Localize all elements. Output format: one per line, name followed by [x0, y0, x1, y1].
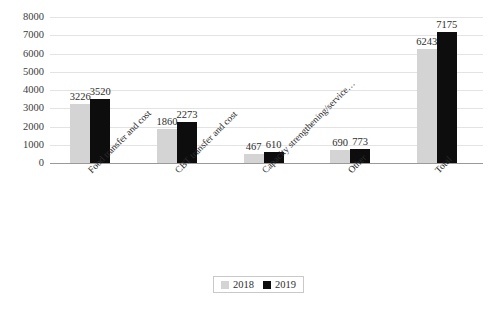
bar-value-label: 1860	[156, 116, 177, 127]
bar-2018[interactable]: 1860	[157, 129, 177, 163]
legend-swatch-2018	[221, 281, 229, 289]
legend-item-2018[interactable]: 2018	[221, 279, 254, 290]
y-axis-tick-label: 4000	[0, 84, 44, 95]
bar-value-label: 773	[352, 136, 368, 147]
legend-item-2019[interactable]: 2019	[263, 279, 296, 290]
bar-value-label: 3520	[90, 86, 111, 97]
y-axis-tick-label: 3000	[0, 102, 44, 113]
bar-value-label: 467	[246, 141, 262, 152]
y-axis-tick-label: 2000	[0, 121, 44, 132]
legend-label-2019: 2019	[275, 279, 296, 290]
y-axis-tick-label: 8000	[0, 11, 44, 22]
bar-value-label: 2273	[176, 109, 197, 120]
bar-2018[interactable]: 690	[330, 150, 350, 163]
bar-2018[interactable]: 6243	[417, 49, 437, 163]
y-axis-tick-label: 7000	[0, 29, 44, 40]
y-axis-tick-label: 5000	[0, 66, 44, 77]
bar-value-label: 3226	[70, 91, 91, 102]
y-axis-tick-label: 1000	[0, 139, 44, 150]
legend-swatch-2019	[263, 281, 271, 289]
bar-group: 18602273	[157, 17, 197, 163]
bar-2019[interactable]: 7175	[437, 32, 457, 163]
bar-2018[interactable]: 467	[244, 154, 264, 163]
bar-value-label: 6243	[416, 36, 437, 47]
bar-2018[interactable]: 3226	[70, 104, 90, 163]
y-axis-tick-label: 0	[0, 157, 44, 168]
legend-label-2018: 2018	[233, 279, 254, 290]
bar-group: 32263520	[70, 17, 110, 163]
bar-chart: 010002000300040005000600070008000 322635…	[0, 0, 496, 310]
bar-group: 62437175	[417, 17, 457, 163]
legend: 2018 2019	[213, 276, 304, 293]
bar-value-label: 690	[332, 137, 348, 148]
bar-value-label: 7175	[436, 19, 457, 30]
bar-group: 467610	[244, 17, 284, 163]
y-axis-tick-label: 6000	[0, 48, 44, 59]
